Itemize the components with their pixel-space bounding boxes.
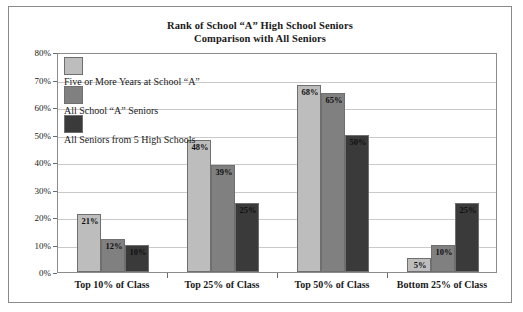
legend-item-label: Five or More Years at School “A” [64,76,200,88]
y-axis-tick-label: 20% [11,214,51,223]
bar-value-label: 21% [76,217,104,226]
bar-value-label: 10% [124,248,152,257]
bar[interactable]: 39% [211,165,235,272]
x-axis-category-label: Top 50% of Class [272,279,392,291]
bar-value-label: 10% [430,248,458,257]
bar-group: 68%65%50% [297,54,369,272]
bar-value-label: 25% [234,206,262,215]
x-axis-category-label: Top 25% of Class [162,279,282,291]
chart-title-line-1: Rank of School “A” High School Seniors [167,20,353,31]
y-axis-tick-label: 10% [11,242,51,251]
x-axis-category-label: Bottom 25% of Class [382,279,502,291]
bar-value-label: 5% [406,261,434,270]
legend-item-label: All Seniors from 5 High Schools [64,134,195,146]
legend-color-swatch [64,115,83,133]
legend-color-swatch [64,86,83,104]
y-axis-tick-label: 50% [11,132,51,141]
chart-title-line-2: Comparison with All Seniors [9,32,511,45]
bar[interactable]: 68% [297,85,321,272]
y-axis-tick-label: 80% [11,49,51,58]
y-axis-tick [53,273,57,274]
bar-value-label: 25% [454,206,482,215]
y-axis-tick-label: 30% [11,187,51,196]
bar[interactable]: 25% [235,203,259,272]
bar[interactable]: 10% [125,245,149,273]
x-axis-category-label: Top 10% of Class [52,279,172,291]
bar-value-label: 65% [320,96,348,105]
y-axis-tick-label: 40% [11,159,51,168]
bar[interactable]: 25% [455,203,479,272]
x-axis-tick [387,273,388,278]
bar[interactable]: 21% [77,214,101,272]
y-axis-tick-label: 60% [11,104,51,113]
bar[interactable]: 12% [101,239,125,272]
legend-color-swatch [64,57,83,75]
bar[interactable]: 48% [187,140,211,272]
bar-value-label: 39% [210,168,238,177]
y-axis-tick-label: 70% [11,77,51,86]
bar[interactable]: 10% [431,245,455,273]
bar-value-label: 50% [344,138,372,147]
bar[interactable]: 50% [345,135,369,273]
bar[interactable]: 5% [407,258,431,272]
x-axis-tick [167,273,168,278]
chart-frame: Rank of School “A” High School Seniors C… [8,6,512,303]
y-axis-tick-label: 0% [11,269,51,278]
x-axis-tick [277,273,278,278]
bar[interactable]: 65% [321,93,345,272]
chart-title: Rank of School “A” High School Seniors C… [9,19,511,45]
bar-group: 5%10%25% [407,54,479,272]
